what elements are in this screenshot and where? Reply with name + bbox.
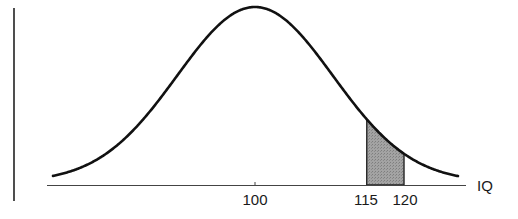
tick-label-100: 100 [242,191,267,208]
x-axis-label: IQ [477,177,493,194]
tick-label-115: 115 [354,191,378,208]
tick-label-120: 120 [392,191,417,208]
normal-curve-diagram: 100 115 120 IQ [0,0,518,219]
shaded-region-115-120 [367,119,404,185]
